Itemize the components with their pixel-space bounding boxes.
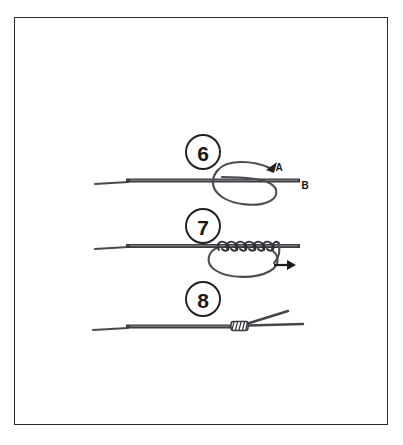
step8-standing-line-right xyxy=(248,324,303,326)
step-badge-7: 7 xyxy=(186,209,220,243)
step8-tag-end xyxy=(243,311,288,325)
step-badge-7-label: 7 xyxy=(197,216,209,239)
step-6-group: 6 A B xyxy=(95,135,309,205)
step-badge-6-label: 6 xyxy=(197,142,209,165)
step-8-group: 8 xyxy=(93,282,303,331)
step-badge-8-label: 8 xyxy=(197,289,209,312)
knot-diagram-canvas: 6 A B xyxy=(0,0,403,445)
step8-standing-line-thin xyxy=(93,328,128,330)
step-badge-6: 6 xyxy=(186,135,220,169)
step7-standing-line-thin xyxy=(95,247,128,249)
step6-standing-line-thin xyxy=(95,182,128,184)
step8-knot-cluster xyxy=(231,322,248,331)
step6-tag-end-loop xyxy=(213,162,276,205)
step-badge-8: 8 xyxy=(186,282,220,316)
endpoint-label-a: A xyxy=(275,162,282,173)
endpoint-label-b: B xyxy=(301,180,308,191)
step-7-group: 7 xyxy=(95,209,300,277)
knot-diagram-figure: 6 A B xyxy=(0,0,403,445)
